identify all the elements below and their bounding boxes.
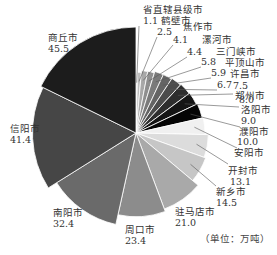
slice-label-name: 省直辖县级市	[143, 4, 203, 15]
slice-label-value: 7.5	[233, 80, 248, 91]
slice-label-value: 8.0	[239, 94, 254, 105]
slice-label-name: 信阳市	[10, 123, 40, 134]
slice-label-name: 驻马店市	[175, 206, 215, 217]
slice-label-value: 41.4	[10, 134, 31, 145]
pie-slices	[32, 27, 208, 224]
slice-label-name: 开封市	[228, 165, 258, 176]
slice-label-value: 10.0	[237, 136, 258, 147]
slice-label-name: 三门峡市	[216, 46, 256, 57]
slice-label-name: 焦作市	[183, 21, 213, 32]
slice-label-value: 4.4	[187, 46, 202, 57]
slice-label-name: 平顶山市	[225, 57, 265, 68]
slice-label-value: 5.9	[211, 67, 226, 78]
slice-label-value: 9.0	[241, 115, 256, 126]
slice-label-value: 2.5	[157, 26, 172, 37]
slice-label-value: 45.5	[48, 43, 69, 54]
slice-label-name: 新乡市	[216, 186, 246, 197]
slice-label-name: 周口市	[125, 224, 155, 235]
slice-label-value: 4.1	[173, 34, 188, 45]
slice-label-value: 6.7	[217, 79, 232, 90]
slice-label-value: 21.0	[175, 217, 196, 228]
slice-label-name: 洛阳市	[241, 104, 271, 115]
slice-label-name: 安阳市	[234, 147, 264, 158]
slice-label-name: 漯河市	[202, 34, 232, 45]
slice-label-value: 23.4	[125, 235, 146, 246]
slice-label-name: 许昌市	[230, 68, 260, 79]
slice-label-name: 南阳市	[53, 207, 83, 218]
slice-label-value: 32.4	[53, 218, 74, 229]
slice-label-value: 5.8	[201, 56, 216, 67]
slice-label-value: 14.5	[216, 197, 237, 208]
slice-label-value: 1.1	[143, 15, 158, 26]
pie-chart: 省直辖县级市1.1鹤壁市2.5焦作市4.1漯河市4.4三门峡市5.8平顶山市5.…	[0, 0, 277, 255]
slice-label-name: 商丘市	[48, 32, 78, 43]
unit-note: （单位：万吨）	[200, 231, 270, 245]
